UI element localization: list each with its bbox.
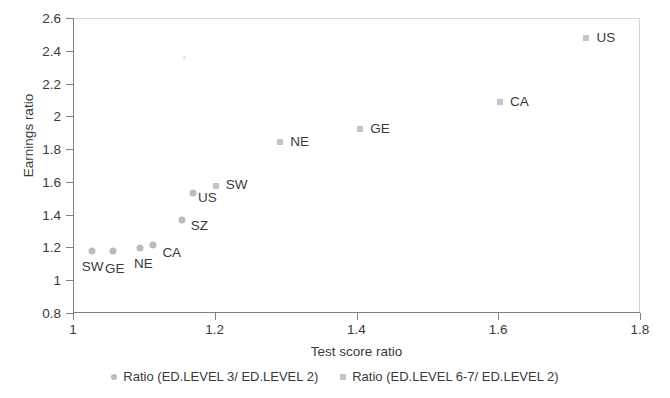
data-point-square-ge [357, 126, 363, 132]
x-tick-label: 1.4 [327, 322, 387, 337]
data-point-square-us [583, 35, 589, 41]
y-tick-mark [66, 116, 73, 117]
data-point-circle-us [190, 189, 197, 196]
chart-legend: Ratio (ED.LEVEL 3/ ED.LEVEL 2)Ratio (ED.… [0, 369, 670, 384]
x-tick-mark [498, 313, 499, 320]
data-point-square-ne [277, 139, 283, 145]
y-tick-mark [66, 215, 73, 216]
y-tick-mark [66, 280, 73, 281]
chart-title-remnant [150, 0, 530, 4]
x-tick-mark [357, 313, 358, 320]
data-point-label: US [596, 30, 615, 45]
data-point-label: NE [134, 256, 153, 271]
legend-label: Ratio (ED.LEVEL 6-7/ ED.LEVEL 2) [352, 369, 558, 384]
x-tick-mark [73, 313, 74, 320]
legend-item[interactable]: Ratio (ED.LEVEL 6-7/ ED.LEVEL 2) [340, 369, 558, 384]
data-point-label: US [198, 190, 217, 205]
y-tick-mark [66, 247, 73, 248]
x-tick-mark [640, 313, 641, 320]
data-point-circle-sw [88, 247, 95, 254]
x-axis-title: Test score ratio [73, 344, 640, 359]
faint-artifact-dot [183, 56, 186, 59]
data-point-label: GE [370, 121, 390, 136]
y-tick-mark [66, 84, 73, 85]
y-tick-mark [66, 51, 73, 52]
x-tick-label: 1.8 [610, 322, 670, 337]
data-point-label: CA [510, 94, 529, 109]
data-point-label: SW [82, 259, 104, 274]
legend-item[interactable]: Ratio (ED.LEVEL 3/ ED.LEVEL 2) [111, 369, 318, 384]
y-tick-mark [66, 313, 73, 314]
y-tick-label: 1.2 [0, 240, 61, 255]
data-point-label: SZ [191, 218, 208, 233]
y-axis-title: Earnings ratio [21, 56, 36, 216]
legend-square-icon [340, 374, 346, 380]
data-point-square-sw [213, 183, 219, 189]
data-point-circle-ne [136, 245, 143, 252]
legend-label: Ratio (ED.LEVEL 3/ ED.LEVEL 2) [123, 369, 318, 384]
scatter-chart: SWGENECASZUSSWNEGECAUS 0.811.21.41.61.82… [0, 0, 670, 398]
data-point-label: SW [226, 177, 248, 192]
data-point-label: NE [290, 134, 309, 149]
y-tick-label: 2.6 [0, 11, 61, 26]
y-tick-label: 0.8 [0, 306, 61, 321]
plot-area: SWGENECASZUSSWNEGECAUS [73, 18, 640, 313]
y-tick-mark [66, 149, 73, 150]
x-tick-label: 1.6 [468, 322, 528, 337]
data-point-circle-sz [178, 216, 185, 223]
legend-circle-icon [111, 374, 117, 380]
y-tick-mark [66, 18, 73, 19]
y-tick-mark [66, 182, 73, 183]
x-tick-label: 1.2 [185, 322, 245, 337]
x-tick-mark [215, 313, 216, 320]
data-point-label: CA [162, 245, 181, 260]
data-point-square-ca [497, 99, 503, 105]
x-tick-label: 1 [43, 322, 103, 337]
data-point-circle-ca [150, 241, 157, 248]
y-tick-label: 1 [0, 273, 61, 288]
data-point-circle-ge [109, 247, 116, 254]
data-point-label: GE [105, 261, 125, 276]
